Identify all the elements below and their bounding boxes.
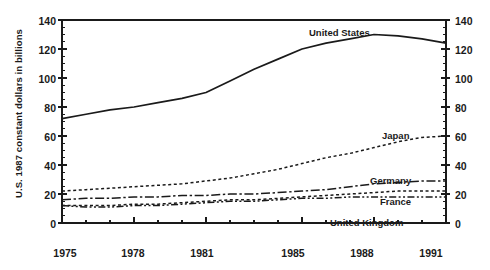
axis-tick-marks	[58, 20, 450, 223]
chart-canvas	[0, 0, 490, 270]
series-line-united-states	[62, 35, 446, 119]
series-line-germany	[62, 181, 446, 200]
series-lines	[62, 35, 446, 208]
line-chart: U.S. 1987 constant dollars in billions 1…	[0, 0, 490, 270]
